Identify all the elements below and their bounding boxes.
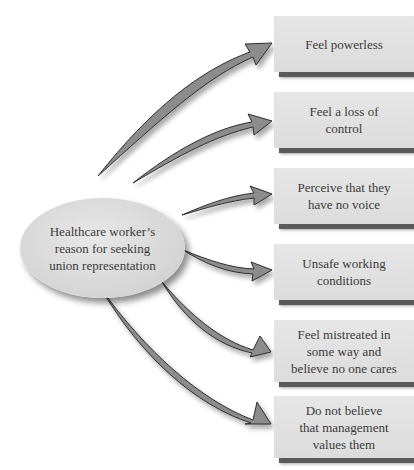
reason-text: Do not believe xyxy=(299,402,388,419)
reason-box-mistreated: Feel mistreated in some way and believe … xyxy=(274,320,414,382)
arrow-icon xyxy=(182,186,272,215)
reason-box-loss-of-control: Feel a loss of control xyxy=(274,92,414,148)
reason-box-management-values: Do not believe that management values th… xyxy=(274,396,414,458)
reason-text: Unsafe working xyxy=(302,255,385,272)
arrow-icon xyxy=(98,43,272,176)
reason-box-feel-powerless: Feel powerless xyxy=(274,16,414,72)
reason-box-no-voice: Perceive that they have no voice xyxy=(274,168,414,224)
arrow-icon xyxy=(162,282,271,357)
reason-text: Perceive that they xyxy=(297,179,390,196)
reason-text: Feel a loss of xyxy=(310,103,379,120)
central-topic-line: Healthcare worker’s xyxy=(49,223,156,240)
reason-box-unsafe-conditions: Unsafe working conditions xyxy=(274,244,414,300)
reason-text: some way and xyxy=(291,343,397,360)
reason-text: that management xyxy=(299,419,388,436)
reason-text: believe no one cares xyxy=(291,360,397,377)
reason-text: have no voice xyxy=(297,196,390,213)
reason-text: conditions xyxy=(302,272,385,289)
reason-text: values them xyxy=(299,436,388,453)
reason-text: Feel powerless xyxy=(305,36,383,53)
reason-text: Feel mistreated in xyxy=(291,326,397,343)
central-topic-line: union representation xyxy=(49,257,156,274)
reason-text: control xyxy=(310,120,379,137)
central-topic-ellipse: Healthcare worker’s reason for seeking u… xyxy=(20,198,185,298)
arrow-icon xyxy=(183,250,272,281)
central-topic-line: reason for seeking xyxy=(49,240,156,257)
